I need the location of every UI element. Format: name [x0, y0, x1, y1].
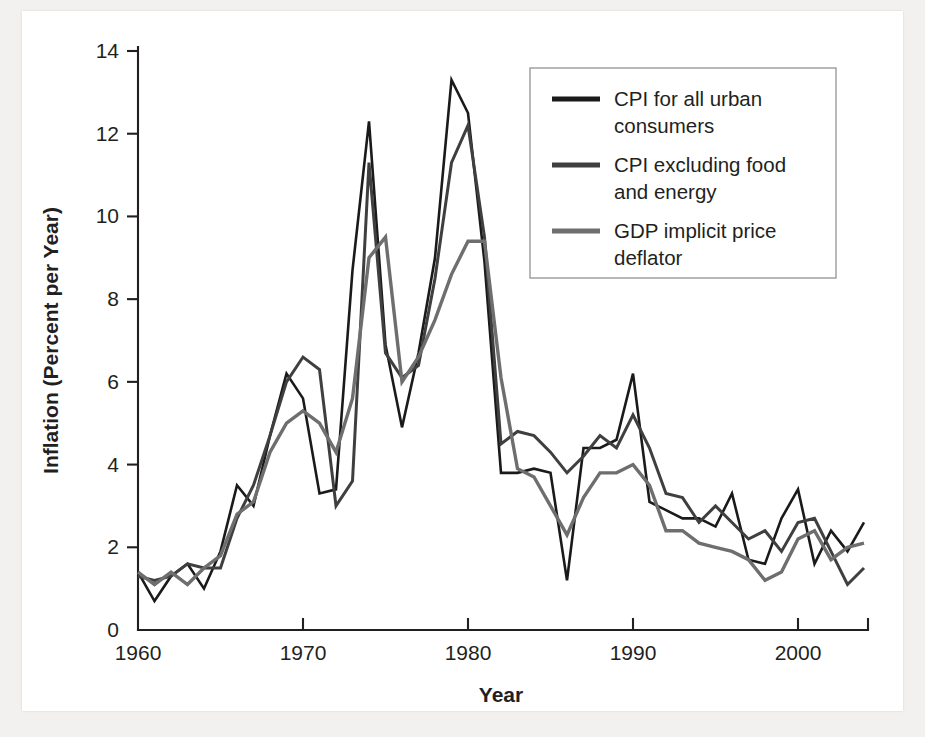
- legend-label-2-line2: deflator: [614, 246, 683, 269]
- x-tick-label: 2000: [775, 641, 822, 664]
- x-tick-label: 1970: [280, 641, 327, 664]
- y-tick-label: 0: [107, 618, 119, 641]
- x-tick-label: 1980: [445, 641, 492, 664]
- y-axis-title: Inflation (Percent per Year): [39, 207, 62, 474]
- legend-label-1: CPI excluding food: [614, 153, 786, 176]
- x-axis-title: Year: [479, 683, 523, 706]
- y-tick-label: 12: [96, 122, 119, 145]
- figure-background: 02468101214 19601970198019902000 Inflati…: [0, 0, 925, 737]
- legend-label-1-line2: and energy: [614, 180, 717, 203]
- legend-label-2: GDP implicit price: [614, 219, 777, 242]
- legend-label-0-line2: consumers: [614, 114, 714, 137]
- y-tick-label: 10: [96, 204, 119, 227]
- y-tick-label: 6: [107, 370, 119, 393]
- y-tick-label: 8: [107, 287, 119, 310]
- x-tick-label: 1990: [610, 641, 657, 664]
- figure-card: 02468101214 19601970198019902000 Inflati…: [22, 11, 903, 711]
- y-tick-label: 2: [107, 535, 119, 558]
- y-tick-label: 14: [96, 39, 120, 62]
- inflation-line-chart: 02468101214 19601970198019902000 Inflati…: [22, 11, 903, 711]
- chart-legend: CPI for all urbanconsumersCPI excluding …: [530, 68, 836, 278]
- x-tick-label: 1960: [115, 641, 162, 664]
- legend-label-0: CPI for all urban: [614, 87, 762, 110]
- y-tick-label: 4: [107, 453, 119, 476]
